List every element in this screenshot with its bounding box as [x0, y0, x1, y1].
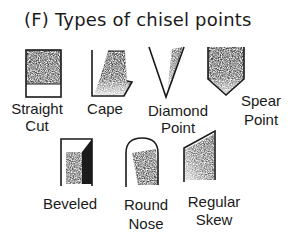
- regular-skew-chisel-icon: [180, 128, 220, 186]
- label-line: Spear: [234, 92, 288, 109]
- label-line: Beveled: [36, 195, 104, 212]
- figure-title: (F) Types of chisel points: [24, 9, 252, 30]
- straight-cut-chisel-icon: [24, 48, 64, 100]
- label-line: Regular: [182, 193, 246, 210]
- label-line: Point: [234, 111, 288, 128]
- cape-label: Cape: [82, 100, 128, 117]
- regular-skew-label: Regular Skew: [182, 193, 246, 228]
- label-line: Diamond: [140, 102, 216, 119]
- label-line: Skew: [182, 211, 246, 228]
- label-line: Cut: [6, 117, 68, 134]
- cape-chisel-icon: [88, 48, 134, 100]
- label-line: Round: [118, 196, 174, 213]
- beveled-chisel-icon: [58, 136, 96, 188]
- diamond-point-chisel-icon: [146, 45, 188, 103]
- label-line: Cape: [82, 100, 128, 117]
- round-nose-label: Round Nose: [118, 196, 174, 232]
- spear-point-chisel-icon: [206, 45, 248, 99]
- label-line: Nose: [118, 215, 174, 232]
- straight-cut-label: Straight Cut: [6, 100, 68, 134]
- spear-point-label: Spear Point: [234, 92, 288, 128]
- label-line: Straight: [6, 100, 68, 117]
- round-nose-chisel-icon: [122, 135, 164, 189]
- beveled-label: Beveled: [36, 195, 104, 212]
